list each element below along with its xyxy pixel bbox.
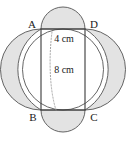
- right-lune-shape: [85, 29, 126, 110]
- geometry-canvas: A D B C 4 cm 8 cm: [0, 0, 128, 141]
- width-dimension-label: 4 cm: [54, 33, 74, 44]
- vertex-label-c: C: [90, 111, 97, 123]
- top-semicircle-shape: [41, 7, 85, 29]
- bottom-semicircle-shape: [41, 110, 85, 132]
- vertex-label-d: D: [90, 18, 98, 30]
- height-dimension-label: 8 cm: [54, 64, 74, 75]
- geometry-figure: A D B C 4 cm 8 cm: [0, 0, 128, 141]
- left-lune-shape: [0, 29, 41, 110]
- vertex-label-a: A: [28, 18, 36, 30]
- vertex-label-b: B: [29, 111, 36, 123]
